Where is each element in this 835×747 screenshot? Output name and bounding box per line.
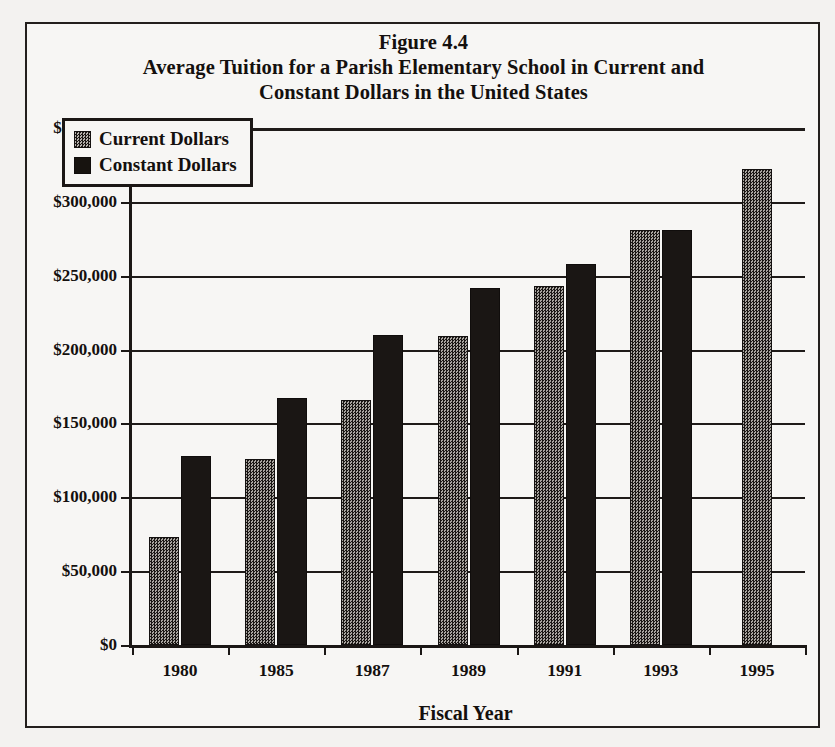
legend-label-constant-dollars: Constant Dollars bbox=[99, 154, 237, 176]
bar-1985-current-dollars bbox=[245, 459, 275, 645]
x-axis-label: 1991 bbox=[547, 660, 582, 681]
y-axis-tick bbox=[121, 350, 132, 352]
x-axis-tick bbox=[420, 645, 422, 655]
gridline bbox=[132, 276, 805, 278]
plot-area: $0$50,000$100,000$150,000$200,000$250,00… bbox=[129, 128, 805, 648]
bar-1991-constant-dollars bbox=[566, 264, 596, 645]
figure-page: Figure 4.4 Average Tuition for a Parish … bbox=[0, 0, 835, 747]
figure-title: Figure 4.4 Average Tuition for a Parish … bbox=[29, 30, 818, 105]
legend-label-current-dollars: Current Dollars bbox=[99, 128, 229, 150]
legend-item-current-dollars: Current Dollars bbox=[74, 126, 237, 152]
gridline bbox=[132, 423, 805, 425]
x-axis-tick bbox=[613, 645, 615, 655]
x-axis-label: 1980 bbox=[163, 660, 198, 681]
x-axis-tick bbox=[324, 645, 326, 655]
bar-1987-constant-dollars bbox=[373, 335, 403, 645]
gridline bbox=[132, 202, 805, 204]
bar-1995-current-dollars bbox=[742, 169, 772, 645]
gridline bbox=[132, 497, 805, 499]
y-axis-label: $100,000 bbox=[53, 487, 117, 507]
y-axis-tick bbox=[121, 497, 132, 499]
x-axis-label: 1993 bbox=[643, 660, 678, 681]
x-axis-tick bbox=[805, 645, 807, 655]
x-axis-tick bbox=[517, 645, 519, 655]
bar-1993-current-dollars bbox=[630, 230, 660, 645]
y-axis-label: $0 bbox=[100, 635, 117, 655]
gridline bbox=[132, 350, 805, 352]
y-axis-tick bbox=[121, 276, 132, 278]
bar-1980-current-dollars bbox=[149, 537, 179, 645]
bar-1989-current-dollars bbox=[438, 336, 468, 645]
x-axis-tick bbox=[132, 645, 134, 655]
legend-swatch-constant-dollars-icon bbox=[74, 157, 91, 174]
y-axis-tick bbox=[121, 645, 132, 647]
chart-legend: Current Dollars Constant Dollars bbox=[62, 118, 253, 187]
y-axis-label: $200,000 bbox=[53, 340, 117, 360]
bar-1980-constant-dollars bbox=[181, 456, 211, 645]
y-axis-label: $150,000 bbox=[53, 413, 117, 433]
x-axis-label: 1995 bbox=[739, 660, 774, 681]
x-axis-tick bbox=[709, 645, 711, 655]
x-axis-label: 1989 bbox=[451, 660, 486, 681]
y-axis-tick bbox=[121, 423, 132, 425]
title-line-2: Average Tuition for a Parish Elementary … bbox=[29, 55, 818, 80]
x-axis-title: Fiscal Year bbox=[129, 702, 802, 725]
y-axis-tick bbox=[121, 202, 132, 204]
legend-swatch-current-dollars-icon bbox=[74, 131, 91, 148]
y-axis-tick bbox=[121, 571, 132, 573]
bar-1985-constant-dollars bbox=[277, 398, 307, 645]
y-axis-label: $300,000 bbox=[53, 192, 117, 212]
title-line-3: Constant Dollars in the United States bbox=[29, 80, 818, 105]
y-axis-label: $50,000 bbox=[62, 561, 117, 581]
x-axis-label: 1987 bbox=[355, 660, 390, 681]
legend-item-constant-dollars: Constant Dollars bbox=[74, 152, 237, 178]
bar-1993-constant-dollars bbox=[662, 230, 692, 645]
figure-border-frame: Figure 4.4 Average Tuition for a Parish … bbox=[25, 22, 820, 728]
bar-1989-constant-dollars bbox=[470, 288, 500, 645]
title-line-1: Figure 4.4 bbox=[29, 30, 818, 55]
x-axis-label: 1985 bbox=[259, 660, 294, 681]
gridline bbox=[132, 571, 805, 573]
x-axis-tick bbox=[228, 645, 230, 655]
bar-1987-current-dollars bbox=[341, 400, 371, 645]
bar-1991-current-dollars bbox=[534, 286, 564, 645]
y-axis-label: $250,000 bbox=[53, 266, 117, 286]
